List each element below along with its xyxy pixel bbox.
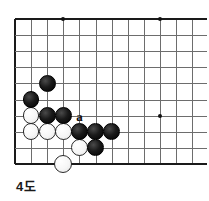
black-stone[interactable] [39, 75, 56, 92]
star-point [158, 114, 162, 118]
grid-line-horizontal [15, 51, 207, 52]
black-stone[interactable] [87, 123, 104, 140]
grid-line-vertical [14, 19, 16, 164]
grid-line-vertical [176, 19, 177, 164]
grid-line-vertical [144, 19, 145, 164]
black-stone[interactable] [23, 91, 40, 108]
white-stone[interactable] [39, 123, 56, 140]
grid-line-vertical [128, 19, 129, 164]
white-stone[interactable] [54, 155, 72, 173]
black-stone[interactable] [71, 123, 88, 140]
grid-line-horizontal [15, 67, 207, 68]
black-stone[interactable] [87, 139, 104, 156]
white-stone[interactable] [71, 139, 88, 156]
grid-line-vertical [160, 19, 161, 164]
grid-line-vertical [192, 19, 193, 164]
white-stone[interactable] [55, 123, 72, 140]
go-diagram-figure: a 4도 [0, 0, 209, 201]
diagram-caption: 4도 [16, 176, 36, 195]
black-stone[interactable] [103, 123, 120, 140]
white-stone[interactable] [23, 107, 40, 124]
black-stone[interactable] [55, 107, 72, 124]
star-point [61, 17, 65, 21]
black-stone[interactable] [39, 107, 56, 124]
grid-line-horizontal [15, 100, 207, 101]
grid-line-horizontal [15, 148, 207, 149]
grid-line-vertical [63, 19, 64, 164]
grid-line-horizontal [15, 163, 207, 165]
grid-line-vertical [112, 19, 113, 164]
star-point [158, 17, 162, 21]
white-stone[interactable] [23, 123, 40, 140]
board-point-marker-a: a [71, 110, 87, 123]
grid-line-horizontal [15, 18, 207, 20]
grid-line-horizontal [15, 35, 207, 36]
go-board[interactable]: a [0, 0, 209, 175]
